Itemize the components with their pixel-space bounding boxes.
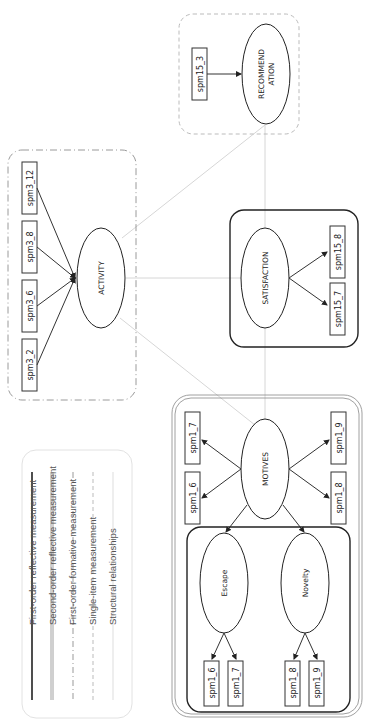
indicator-label: spm1_8	[289, 667, 298, 698]
construct-label-activity: ACTIVITY	[97, 261, 106, 295]
indicator-spm3_12: spm3_12	[22, 162, 37, 214]
indicator-spm15_7: spm15_7	[330, 283, 345, 335]
legend-label-second-order: Second-order reflective measurement	[47, 466, 58, 625]
indicator-spm1_8-top: spm1_8	[331, 472, 346, 524]
construct-label-motives: MOTIVES	[261, 452, 270, 486]
construct-label-recommendation-1: RECOMMEND	[257, 49, 266, 99]
indicator-label: spm15_3	[196, 56, 205, 92]
construct-label-satisfaction: SATISFACTION	[261, 251, 270, 304]
reflective-arrow	[212, 633, 224, 659]
indicator-label: spm3_12	[26, 170, 35, 206]
indicator-label: spm1_7	[232, 667, 241, 698]
construct-label-recommendation-2: ATION	[267, 63, 276, 86]
formative-arrow	[37, 188, 75, 278]
indicator-spm1_7-top: spm1_7	[185, 412, 200, 464]
path-activity-recommendation	[122, 125, 265, 238]
reflective-arrow	[202, 440, 241, 469]
indicator-spm1_8-novelty: spm1_8	[285, 661, 300, 706]
reflective-arrow	[289, 469, 329, 498]
legend-label-reflective: First-order reflective measurement	[27, 479, 38, 625]
indicator-label: spm3_6	[26, 290, 35, 321]
motives-group: spm1_7 spm1_6 spm1_9 spm1_8 MOTIVES Esca…	[172, 395, 362, 717]
indicator-spm1_9-novelty: spm1_9	[309, 661, 324, 706]
indicator-label: spm3_2	[26, 349, 35, 380]
reflective-arrow	[305, 633, 317, 659]
indicator-spm3_8: spm3_8	[22, 221, 37, 273]
reflective-arrow	[294, 633, 305, 659]
indicator-label: spm3_8	[26, 231, 35, 262]
reflective-arrow	[224, 633, 236, 659]
indicator-label: spm1_6	[189, 482, 198, 513]
indicator-label: spm1_7	[189, 422, 198, 453]
indicator-spm3_6: spm3_6	[22, 280, 37, 332]
reflective-arrow	[289, 440, 329, 469]
indicator-label: spm15_8	[334, 234, 343, 270]
indicator-label: spm1_9	[313, 667, 322, 698]
indicator-label: spm15_7	[334, 291, 343, 327]
reflective-arrow	[202, 469, 241, 498]
second-order-arrow	[283, 505, 304, 532]
second-order-arrow	[226, 505, 247, 532]
indicator-spm15_3: spm15_3	[192, 48, 207, 100]
formative-arrow	[37, 247, 75, 278]
path-diagram: First-order reflective measurement Secon…	[0, 0, 371, 720]
legend-label-formative: First-order formative measurement	[67, 478, 78, 625]
indicator-label: spm1_8	[335, 482, 344, 513]
activity-group: spm3_12 spm3_8 spm3_6 spm3_2 ACTIVITY	[8, 150, 136, 400]
indicator-spm1_7-escape: spm1_7	[228, 661, 243, 706]
construct-label-escape: Escape	[220, 569, 229, 596]
indicator-spm1_6-top: spm1_6	[185, 472, 200, 524]
satisfaction-group: SATISFACTION spm15_8 spm15_7	[230, 210, 358, 347]
indicator-label: spm1_6	[208, 667, 217, 698]
indicator-spm15_8: spm15_8	[330, 226, 345, 278]
construct-recommendation	[242, 24, 290, 124]
legend-label-structural: Structural relationships	[107, 528, 118, 625]
legend-label-single-item: Single-item measurement	[87, 516, 98, 625]
indicator-spm3_2: spm3_2	[22, 339, 37, 391]
recommendation-group: spm15_3 RECOMMEND ATION	[179, 14, 299, 134]
indicator-spm1_9-top: spm1_9	[331, 412, 346, 464]
indicator-spm1_6-escape: spm1_6	[204, 661, 219, 706]
construct-label-novelty: Novelty	[301, 568, 310, 597]
legend: First-order reflective measurement Secon…	[22, 450, 132, 718]
indicator-label: spm1_9	[335, 422, 344, 453]
reflective-arrow	[289, 278, 327, 305]
formative-arrow	[37, 278, 75, 365]
reflective-arrow	[289, 252, 327, 278]
